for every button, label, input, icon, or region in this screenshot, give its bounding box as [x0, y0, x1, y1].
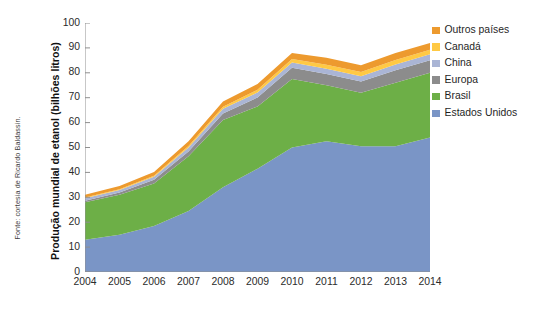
legend-swatch-icon [432, 93, 440, 101]
plot-area [85, 23, 430, 272]
y-tick-label: 20 [54, 217, 80, 227]
ethanol-production-chart-figure: Fonte: cortesia de Ricardo Baldassin. Pr… [0, 0, 551, 310]
legend-item-label: Outros países [445, 25, 510, 35]
legend-item[interactable]: Europa [432, 72, 550, 89]
y-tick-label: 70 [54, 92, 80, 102]
legend-item-label: Canadá [445, 42, 481, 52]
stacked-area-plot [85, 23, 430, 272]
legend-item[interactable]: Outros países [432, 22, 550, 39]
y-tick-label: 90 [54, 42, 80, 52]
y-tick-label: 50 [54, 142, 80, 152]
legend-swatch-icon [432, 60, 440, 68]
y-tick-label: 80 [54, 67, 80, 77]
legend-item[interactable]: Canadá [432, 39, 550, 56]
legend-swatch-icon [432, 76, 440, 84]
source-note: Fonte: cortesia de Ricardo Baldassin. [13, 90, 22, 240]
y-tick-label: 40 [54, 167, 80, 177]
area-series-group [85, 43, 430, 272]
y-tick-label: 30 [54, 192, 80, 202]
legend-swatch-icon [432, 27, 440, 35]
legend-item-label: China [445, 58, 472, 68]
y-tick-label: 60 [54, 117, 80, 127]
legend-item-label: Europa [445, 75, 479, 85]
legend-swatch-icon [432, 110, 440, 118]
legend-item[interactable]: China [432, 55, 550, 72]
legend-item[interactable]: Brasil [432, 88, 550, 105]
x-axis-tick-labels: 2004200520062007200820092010201120122013… [85, 277, 430, 293]
legend-item[interactable]: Estados Unidos [432, 105, 550, 122]
legend-swatch-icon [432, 43, 440, 51]
legend-item-label: Brasil [445, 91, 471, 101]
y-axis-tick-labels: 0102030405060708090100 [52, 0, 80, 310]
legend-item-label: Estados Unidos [445, 108, 518, 118]
y-tick-label: 100 [54, 18, 80, 28]
x-tick-label: 2014 [410, 277, 450, 287]
chart-legend: Outros paísesCanadáChinaEuropaBrasilEsta… [432, 22, 550, 122]
y-tick-label: 10 [54, 242, 80, 252]
